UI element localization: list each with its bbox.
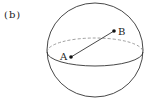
segment-ab [71,31,114,57]
point-b-dot [112,29,116,33]
sphere-figure: (b) A B [0,0,150,99]
panel-label: (b) [4,9,21,20]
sphere-outline [47,3,143,97]
equator-back-dashed [47,38,143,52]
point-b-label: B [118,26,125,37]
point-a-label: A [59,51,68,62]
point-a-dot [69,55,73,59]
sphere-diagram: A B [0,0,150,99]
